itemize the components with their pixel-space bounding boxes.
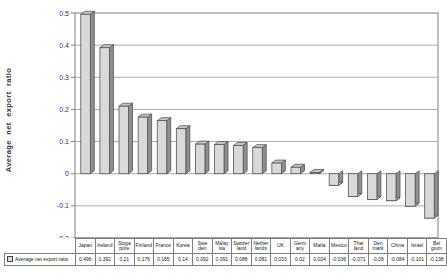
- table-corner-spacer: [5, 239, 76, 254]
- bar-finland: [138, 114, 152, 174]
- bar-front-face: [348, 174, 358, 197]
- bar-front-face: [138, 117, 148, 174]
- bar-side-face: [90, 11, 94, 173]
- bar-front-face: [195, 144, 205, 174]
- category-header-mexico: Mexico: [329, 239, 349, 254]
- bar-front-face: [367, 174, 377, 200]
- bar-side-face: [243, 142, 247, 173]
- data-table: JapanIrelandSinga poreFinlandFranceKorea…: [4, 238, 447, 266]
- bar-side-face: [415, 171, 419, 206]
- category-header-israel: Israel: [407, 239, 427, 254]
- bar-front-face: [176, 129, 186, 174]
- bar-side-face: [148, 114, 152, 174]
- category-header-malaysia: Malay sia: [212, 239, 232, 254]
- bar-israel: [406, 171, 420, 206]
- category-header-germany: Germ any: [290, 239, 310, 254]
- bar-front-face: [157, 121, 167, 174]
- bar-side-face: [377, 171, 381, 200]
- category-header-denmark: Den mark: [368, 239, 388, 254]
- bar-germany: [291, 164, 305, 173]
- y-tick-label: 0.5: [59, 10, 69, 17]
- bar-side-face: [262, 145, 266, 174]
- value-cell-netherlands: 0.081: [251, 254, 271, 266]
- bar-side-face: [109, 45, 113, 174]
- bar-japan: [81, 11, 95, 173]
- chart-figure: Average net export ratio 0.50.40.30.20.1…: [0, 0, 447, 280]
- bar-front-face: [81, 14, 91, 173]
- category-header-thailand: Thai land: [349, 239, 369, 254]
- bar-side-face: [396, 171, 400, 201]
- category-header-china: China: [388, 239, 408, 254]
- bar-front-face: [253, 148, 263, 174]
- bar-front-face: [234, 145, 244, 173]
- bar-sweden: [195, 141, 209, 174]
- bar-side-face: [167, 118, 171, 174]
- bar-ireland: [100, 45, 114, 174]
- category-header-malta: Malta: [310, 239, 330, 254]
- value-cell-sweden: 0.092: [193, 254, 213, 266]
- bar-france: [157, 118, 171, 174]
- bar-malaysia: [215, 141, 229, 173]
- value-cell-france: 0.165: [154, 254, 174, 266]
- bar-front-face: [215, 144, 225, 173]
- category-header-japan: Japan: [76, 239, 96, 254]
- category-header-singapore: Singa pore: [115, 239, 135, 254]
- category-header-switzerland: Switzer land: [232, 239, 252, 254]
- plot-area: 0.50.40.30.20.10-0.1-0.2: [0, 0, 447, 248]
- y-tick-label: 0.1: [59, 138, 69, 145]
- value-cell-denmark: -0.08: [368, 254, 388, 266]
- bar-denmark: [367, 171, 381, 200]
- bar-netherlands: [253, 145, 267, 174]
- category-header-ireland: Ireland: [95, 239, 115, 254]
- category-header-sweden: Swe den: [193, 239, 213, 254]
- category-header-netherlands: Nether lands: [251, 239, 271, 254]
- legend-series-label: Average net export ratio: [15, 256, 68, 262]
- value-cell-switzerland: 0.088: [232, 254, 252, 266]
- bar-thailand: [348, 171, 362, 197]
- y-tick-label: 0.2: [59, 106, 69, 113]
- bar-front-face: [386, 174, 396, 201]
- legend-key-icon: [7, 256, 13, 262]
- value-cell-malta: 0.004: [310, 254, 330, 266]
- value-cell-thailand: -0.071: [349, 254, 369, 266]
- value-cell-singapore: 0.21: [115, 254, 135, 266]
- bar-front-face: [119, 106, 128, 174]
- category-header-belgium: Bel gium: [427, 239, 447, 254]
- bar-front-face: [406, 174, 416, 206]
- bar-korea: [176, 126, 190, 174]
- value-cell-ireland: 0.392: [95, 254, 115, 266]
- bar-front-face: [310, 172, 320, 173]
- bar-side-face: [224, 141, 228, 173]
- value-cell-israel: -0.101: [407, 254, 427, 266]
- value-cell-china: -0.084: [388, 254, 408, 266]
- bar-side-face: [434, 171, 438, 218]
- bar-singapore: [119, 103, 132, 174]
- category-header-france: France: [154, 239, 174, 254]
- bar-belgium: [425, 171, 439, 218]
- bar-uk: [272, 160, 286, 174]
- category-header-korea: Korea: [173, 239, 193, 254]
- bar-side-face: [129, 103, 133, 173]
- category-header-uk: UK: [271, 239, 291, 254]
- y-tick-label: 0: [65, 170, 69, 177]
- bar-china: [386, 171, 400, 201]
- y-tick-label: -0.1: [57, 202, 69, 209]
- value-cell-uk: 0.033: [271, 254, 291, 266]
- bar-side-face: [205, 141, 209, 174]
- bar-side-face: [186, 126, 190, 174]
- value-cell-mexico: -0.036: [329, 254, 349, 266]
- value-cell-germany: 0.02: [290, 254, 310, 266]
- bar-front-face: [272, 163, 282, 174]
- bar-front-face: [329, 174, 339, 186]
- y-tick-label: 0.3: [59, 74, 69, 81]
- bar-front-face: [291, 167, 301, 173]
- bar-side-face: [358, 171, 362, 197]
- bar-front-face: [100, 48, 110, 174]
- bar-switzerland: [234, 142, 248, 173]
- category-header-finland: Finland: [134, 239, 154, 254]
- value-cell-belgium: -0.138: [427, 254, 447, 266]
- value-cell-finland: 0.176: [134, 254, 154, 266]
- bar-front-face: [425, 174, 435, 218]
- value-cell-korea: 0.14: [173, 254, 193, 266]
- value-cell-japan: 0.496: [76, 254, 96, 266]
